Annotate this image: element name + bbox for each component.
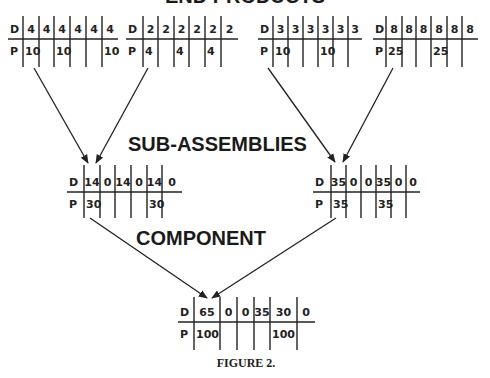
demand-cell: 3 (292, 23, 300, 36)
planned-row-label: P (180, 328, 188, 341)
planned-cell: 10 (104, 45, 120, 58)
demand-cell: 4 (106, 23, 114, 36)
demand-cell: 3 (277, 23, 285, 36)
demand-cell: 8 (420, 23, 428, 36)
demand-cell: 2 (162, 23, 170, 36)
demand-cell: 0 (302, 306, 310, 319)
demand-cell: 8 (451, 23, 459, 36)
demand-cell: 0 (225, 306, 233, 319)
demand-cell: 8 (390, 23, 398, 36)
demand-cell: 8 (405, 23, 413, 36)
demand-cell: 14 (84, 176, 100, 189)
schedule-table-sub-assembly-2: DP353500353500 (313, 165, 420, 218)
demand-cell: 3 (337, 23, 345, 36)
demand-cell: 0 (395, 176, 403, 189)
demand-cell: 2 (209, 23, 217, 36)
mrp-diagram: END PRODUCTS DP410441044410DP242242242DP… (0, 0, 490, 378)
planned-row-label: P (10, 45, 18, 58)
arrow-end-product-4-to-sub-assembly-2 (343, 68, 393, 162)
planned-row-label: P (69, 198, 77, 211)
demand-cell: 14 (115, 176, 131, 189)
planned-cell: 10 (320, 45, 336, 58)
planned-row-label: P (260, 45, 268, 58)
demand-cell: 8 (466, 23, 474, 36)
demand-cell: 3 (322, 23, 330, 36)
component-title: COMPONENT (136, 227, 266, 249)
planned-cell: 25 (433, 45, 448, 58)
demand-cell: 0 (409, 176, 417, 189)
demand-cell: 4 (43, 23, 51, 36)
demand-cell: 0 (242, 306, 250, 319)
demand-cell: 3 (307, 23, 315, 36)
demand-cell: 30 (276, 306, 292, 319)
schedule-table-end-product-3: DP3103331033 (258, 16, 362, 67)
planned-cell: 4 (207, 45, 215, 58)
demand-cell: 2 (226, 23, 234, 36)
demand-cell: 4 (74, 23, 82, 36)
demand-cell: 14 (147, 176, 163, 189)
schedule-table-sub-assembly-1: DP1430014014300 (67, 165, 182, 218)
planned-cell: 100 (196, 328, 219, 341)
sub-assemblies-title: SUB-ASSEMBLIES (128, 133, 307, 155)
demand-row-label: D (260, 23, 269, 36)
planned-cell: 35 (378, 198, 393, 211)
demand-cell: 35 (254, 306, 269, 319)
planned-cell: 30 (86, 198, 102, 211)
demand-cell: 8 (435, 23, 443, 36)
demand-cell: 0 (365, 176, 373, 189)
demand-row-label: D (315, 176, 324, 189)
demand-cell: 4 (27, 23, 35, 36)
demand-row-label: D (69, 176, 78, 189)
demand-row-label: D (128, 23, 137, 36)
schedule-table-component-1: DP651000035301000 (178, 297, 315, 350)
planned-row-label: P (315, 198, 323, 211)
demand-cell: 4 (58, 23, 66, 36)
demand-cell: 2 (178, 23, 186, 36)
figure-caption: FIGURE 2. (217, 356, 276, 370)
planned-cell: 35 (333, 198, 348, 211)
planned-cell: 25 (388, 45, 403, 58)
demand-row-label: D (180, 306, 189, 319)
planned-cell: 30 (149, 198, 165, 211)
demand-cell: 35 (376, 176, 391, 189)
demand-row-label: D (10, 23, 19, 36)
demand-cell: 2 (193, 23, 201, 36)
demand-cell: 0 (350, 176, 358, 189)
planned-cell: 100 (272, 328, 295, 341)
planned-cell: 10 (25, 45, 41, 58)
demand-cell: 65 (199, 306, 214, 319)
planned-row-label: P (375, 45, 383, 58)
schedule-table-end-product-4: DP8258882588 (373, 16, 478, 67)
end-products-title: END PRODUCTS (165, 0, 325, 7)
demand-cell: 0 (135, 176, 143, 189)
planned-row-label: P (128, 45, 136, 58)
demand-cell: 35 (331, 176, 346, 189)
demand-cell: 3 (351, 23, 359, 36)
planned-cell: 4 (145, 45, 153, 58)
demand-cell: 4 (90, 23, 98, 36)
schedule-table-end-product-1: DP410441044410 (8, 16, 120, 67)
arrow-end-product-1-to-sub-assembly-1 (34, 68, 88, 163)
demand-cell: 0 (104, 176, 112, 189)
demand-row-label: D (375, 23, 384, 36)
demand-cell: 0 (168, 176, 176, 189)
planned-cell: 10 (56, 45, 72, 58)
planned-cell: 4 (176, 45, 184, 58)
demand-cell: 2 (147, 23, 155, 36)
planned-cell: 10 (275, 45, 291, 58)
schedule-table-end-product-2: DP242242242 (126, 16, 238, 67)
